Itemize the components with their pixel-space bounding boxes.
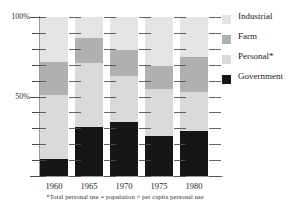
- tick-dash: [174, 65, 186, 66]
- tick-dash: [139, 49, 151, 50]
- tick-dash: [139, 17, 151, 18]
- tick-dash: [34, 128, 46, 129]
- tick-dash: [34, 65, 46, 66]
- bar-segment-1980-farm: [180, 57, 208, 92]
- tick-dash: [209, 81, 221, 82]
- legend-label: Government: [238, 71, 283, 81]
- legend-swatch-icon: [222, 75, 231, 84]
- tick-dash: [139, 65, 151, 66]
- bar-segment-1975-industrial: [145, 17, 173, 66]
- tick-dash: [139, 33, 151, 34]
- tick-dash: [174, 176, 186, 177]
- bar-segment-1975-farm: [145, 66, 173, 88]
- tick-dash: [69, 128, 81, 129]
- tick-dash: [209, 144, 221, 145]
- tick-dash: [209, 49, 221, 50]
- tick-dash: [174, 160, 186, 161]
- tick-dash: [139, 176, 151, 177]
- tick-dash: [104, 33, 116, 34]
- legend-swatch-icon: [222, 55, 231, 64]
- tick-dash: [174, 81, 186, 82]
- x-axis-label-1980: 1980: [174, 181, 214, 191]
- bar-segment-1960-farm: [40, 62, 68, 95]
- bar-segment-1980-government: [180, 131, 208, 176]
- tick-dash: [209, 17, 221, 18]
- tick-dash: [139, 160, 151, 161]
- tick-dash: [104, 144, 116, 145]
- tick-dash: [34, 81, 46, 82]
- tick-dash: [104, 81, 116, 82]
- tick-dash: [34, 112, 46, 113]
- tick-dash: [69, 112, 81, 113]
- tick-dash: [209, 112, 221, 113]
- bar-segment-1965-personal: [75, 63, 103, 127]
- tick-dash: [104, 97, 116, 98]
- tick-dash: [139, 128, 151, 129]
- tick-dash: [209, 65, 221, 66]
- tick-dash: [34, 144, 46, 145]
- tick-dash: [69, 176, 81, 177]
- tick-dash: [139, 81, 151, 82]
- tick-dash: [69, 65, 81, 66]
- x-axis-label-1975: 1975: [139, 181, 179, 191]
- y-axis-label-50: 50%: [0, 92, 30, 101]
- chart-legend: IndustrialFarmPersonal*Government: [222, 12, 300, 92]
- tick-dash: [174, 33, 186, 34]
- tick-dash: [69, 144, 81, 145]
- bar-segment-1960-industrial: [40, 17, 68, 62]
- tick-dash: [104, 17, 116, 18]
- tick-dash: [209, 97, 221, 98]
- bar-segment-1970-personal: [110, 76, 138, 122]
- bar-segment-1965-farm: [75, 38, 103, 63]
- x-axis-label-1970: 1970: [104, 181, 144, 191]
- legend-item-industrial[interactable]: Industrial: [222, 12, 300, 32]
- legend-item-farm[interactable]: Farm: [222, 32, 300, 52]
- bar-segment-1965-industrial: [75, 17, 103, 38]
- legend-swatch-icon: [222, 15, 231, 24]
- tick-dash: [104, 112, 116, 113]
- tick-dash: [104, 176, 116, 177]
- tick-dash: [174, 17, 186, 18]
- bar-segment-1970-farm: [110, 50, 138, 75]
- tick-dash: [69, 160, 81, 161]
- legend-label: Personal*: [238, 51, 274, 61]
- legend-swatch-icon: [222, 35, 231, 44]
- tick-dash: [174, 49, 186, 50]
- tick-dash: [174, 128, 186, 129]
- legend-label: Industrial: [238, 11, 273, 21]
- tick-dash: [139, 144, 151, 145]
- legend-label: Farm: [238, 31, 257, 41]
- y-axis-label-100: 100%: [0, 12, 30, 21]
- x-axis-line: [33, 176, 223, 177]
- tick-dash: [209, 33, 221, 34]
- bar-segment-1980-industrial: [180, 17, 208, 57]
- tick-dash: [104, 160, 116, 161]
- tick-dash: [69, 17, 81, 18]
- bar-segment-1975-government: [145, 136, 173, 176]
- tick-dash: [34, 17, 46, 18]
- bar-segment-1970-government: [110, 122, 138, 176]
- tick-dash: [209, 160, 221, 161]
- tick-dash: [174, 112, 186, 113]
- tick-dash: [174, 144, 186, 145]
- tick-dash: [69, 33, 81, 34]
- tick-dash: [34, 33, 46, 34]
- tick-dash: [139, 112, 151, 113]
- tick-dash: [34, 176, 46, 177]
- tick-dash: [209, 128, 221, 129]
- x-axis-label-1960: 1960: [34, 181, 74, 191]
- bar-segment-1965-government: [75, 127, 103, 176]
- plot-area: [40, 17, 216, 176]
- tick-dash: [69, 81, 81, 82]
- legend-item-personal[interactable]: Personal*: [222, 52, 300, 72]
- tick-dash: [34, 97, 46, 98]
- legend-item-government[interactable]: Government: [222, 72, 300, 92]
- x-axis-label-1965: 1965: [69, 181, 109, 191]
- tick-dash: [139, 97, 151, 98]
- tick-dash: [69, 97, 81, 98]
- stacked-bar-chart: 100%50% 19601965197019751980 IndustrialF…: [0, 0, 301, 222]
- tick-dash: [69, 49, 81, 50]
- tick-dash: [34, 160, 46, 161]
- tick-dash: [104, 65, 116, 66]
- tick-dash: [209, 176, 221, 177]
